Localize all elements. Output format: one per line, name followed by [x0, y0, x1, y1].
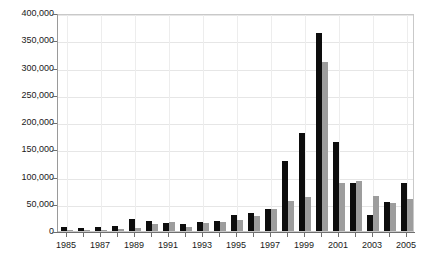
bar-series-2-1987 — [101, 230, 107, 231]
bar-series-2-2003 — [373, 196, 379, 231]
bar-series-2-1990 — [152, 224, 158, 231]
y-axis-tick-label: 100,000 — [2, 173, 54, 182]
x-axis-tick — [355, 233, 356, 237]
bar-series-2-2002 — [356, 181, 362, 231]
x-axis-tick — [134, 233, 135, 237]
x-axis-tick — [219, 233, 220, 237]
gridline-vertical — [169, 15, 170, 231]
bar-series-2-1999 — [305, 197, 311, 231]
gridline-horizontal — [58, 70, 413, 71]
plot-area — [57, 14, 414, 232]
x-axis-tick — [372, 233, 373, 237]
y-axis-tick-label: 150,000 — [2, 145, 54, 154]
y-axis-tick-label: 200,000 — [2, 118, 54, 127]
x-axis-tick-label: 1987 — [83, 240, 117, 250]
x-axis-tick-label: 1995 — [219, 240, 253, 250]
bar-series-2-2001 — [339, 183, 345, 231]
x-axis-tick — [66, 233, 67, 237]
y-axis-tick — [52, 96, 57, 97]
y-axis-tick — [52, 150, 57, 151]
gridline-vertical — [271, 15, 272, 231]
y-axis-line — [57, 14, 58, 233]
y-axis-tick-label: 300,000 — [2, 64, 54, 73]
bar-series-2-2005 — [407, 199, 413, 231]
bar-series-2-1998 — [288, 201, 294, 231]
x-axis-tick-label: 2003 — [355, 240, 389, 250]
x-axis-tick — [321, 233, 322, 237]
x-axis-tick-label: 2005 — [389, 240, 423, 250]
y-axis-tick-label: 50,000 — [2, 200, 54, 209]
gridline-vertical — [203, 15, 204, 231]
x-axis-tick — [168, 233, 169, 237]
x-axis-tick — [406, 233, 407, 237]
gridline-vertical — [135, 15, 136, 231]
y-axis-tick — [52, 205, 57, 206]
x-axis-tick-label: 1993 — [185, 240, 219, 250]
y-axis-tick-label: 250,000 — [2, 91, 54, 100]
y-axis-tick — [52, 178, 57, 179]
bar-series-2-1992 — [186, 227, 192, 231]
y-axis-tick — [52, 41, 57, 42]
bar-series-2-1994 — [220, 222, 226, 231]
bar-series-2-2000 — [322, 62, 328, 231]
bar-series-2-1997 — [271, 209, 277, 231]
gridline-vertical — [237, 15, 238, 231]
x-axis-tick — [287, 233, 288, 237]
bar-series-2-2004 — [390, 203, 396, 231]
y-axis-tick-label: 0 — [2, 227, 54, 236]
gridline-horizontal — [58, 179, 413, 180]
x-axis-tick — [253, 233, 254, 237]
x-axis-tick — [304, 233, 305, 237]
gridline-horizontal — [58, 124, 413, 125]
x-axis-tick — [338, 233, 339, 237]
bar-series-2-1988 — [118, 229, 124, 231]
bar-chart: 050,000100,000150,000200,000250,000300,0… — [0, 0, 423, 259]
gridline-horizontal — [58, 42, 413, 43]
gridline-vertical — [67, 15, 68, 231]
gridline-horizontal — [58, 97, 413, 98]
x-axis-tick — [117, 233, 118, 237]
x-axis-tick-label: 1985 — [49, 240, 83, 250]
y-axis-tick-label: 400,000 — [2, 9, 54, 18]
x-axis-tick-label: 1999 — [287, 240, 321, 250]
bar-series-2-1995 — [237, 220, 243, 231]
y-axis-tick — [52, 14, 57, 15]
gridline-horizontal — [58, 15, 413, 16]
bar-series-2-1993 — [203, 223, 209, 231]
gridline-vertical — [101, 15, 102, 231]
gridline-horizontal — [58, 151, 413, 152]
x-axis-tick — [83, 233, 84, 237]
x-axis-tick-label: 1989 — [117, 240, 151, 250]
x-axis-tick — [270, 233, 271, 237]
x-axis-tick-label: 2001 — [321, 240, 355, 250]
y-axis-tick — [52, 123, 57, 124]
x-axis-tick — [151, 233, 152, 237]
y-axis-tick — [52, 69, 57, 70]
y-axis-labels: 050,000100,000150,000200,000250,000300,0… — [0, 0, 54, 259]
x-axis-tick — [100, 233, 101, 237]
bar-series-2-1986 — [84, 230, 90, 231]
x-axis-tick — [202, 233, 203, 237]
bar-series-2-1985 — [67, 230, 73, 231]
bar-series-2-1991 — [169, 222, 175, 231]
bar-series-2-1989 — [135, 228, 141, 231]
bar-series-2-1996 — [254, 216, 260, 231]
x-axis-tick-label: 1991 — [151, 240, 185, 250]
x-axis-tick — [236, 233, 237, 237]
x-axis-tick — [389, 233, 390, 237]
x-axis-tick-label: 1997 — [253, 240, 287, 250]
x-axis-tick — [185, 233, 186, 237]
y-axis-tick-label: 350,000 — [2, 36, 54, 45]
